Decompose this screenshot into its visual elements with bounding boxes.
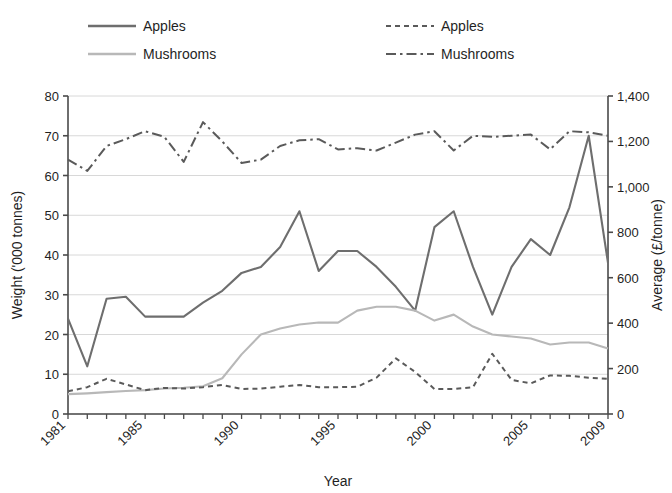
right-tick-label: 200 bbox=[617, 362, 639, 377]
legend-label: Mushrooms bbox=[143, 46, 216, 62]
left-tick-label: 40 bbox=[45, 248, 59, 263]
legend-label: Apples bbox=[143, 18, 186, 34]
right-tick-label: 1,200 bbox=[617, 134, 650, 149]
right-tick-label: 1,000 bbox=[617, 180, 650, 195]
left-tick-label: 70 bbox=[45, 129, 59, 144]
right-tick-label: 400 bbox=[617, 316, 639, 331]
right-tick-label: 600 bbox=[617, 271, 639, 286]
left-tick-label: 50 bbox=[45, 208, 59, 223]
right-tick-label: 1,400 bbox=[617, 89, 650, 104]
legend-label: Mushrooms bbox=[441, 46, 514, 62]
left-axis-title: Weight ('000 tonnes) bbox=[9, 191, 25, 320]
chart-background bbox=[0, 0, 672, 493]
left-tick-label: 20 bbox=[45, 328, 59, 343]
left-tick-label: 30 bbox=[45, 288, 59, 303]
right-tick-label: 0 bbox=[617, 407, 624, 422]
left-tick-label: 80 bbox=[45, 89, 59, 104]
left-axis-tick-labels: 01020304050607080 bbox=[45, 89, 59, 422]
right-axis-title: Average (£/tonne) bbox=[649, 199, 665, 311]
legend-label: Apples bbox=[441, 18, 484, 34]
right-tick-label: 800 bbox=[617, 225, 639, 240]
left-tick-label: 60 bbox=[45, 169, 59, 184]
left-tick-label: 10 bbox=[45, 367, 59, 382]
chart-container: ApplesMushroomsApplesMushrooms 010203040… bbox=[0, 0, 672, 493]
dual-axis-line-chart: ApplesMushroomsApplesMushrooms 010203040… bbox=[0, 0, 672, 493]
x-axis-title: Year bbox=[324, 473, 353, 489]
